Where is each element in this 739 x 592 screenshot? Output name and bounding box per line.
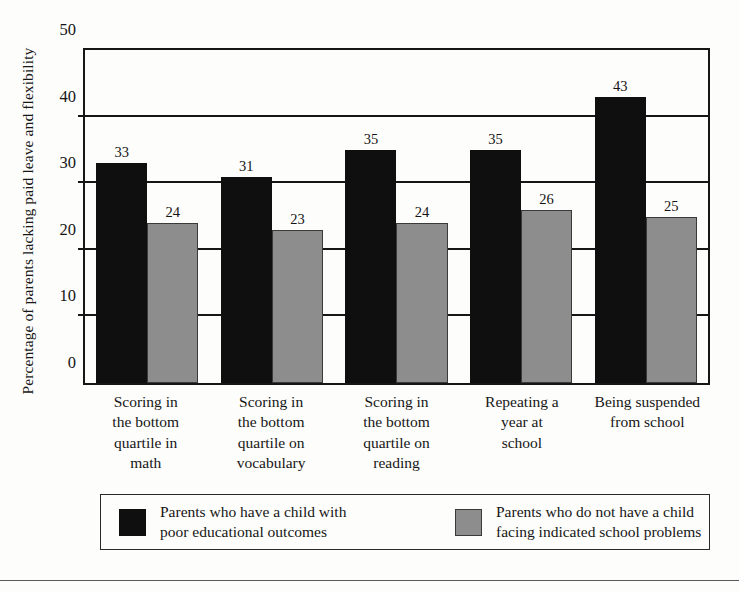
bar-slot: 24 [147,50,198,383]
x-axis-category-label: Scoring in the bottom quartile in math [83,392,208,474]
bar-chart-figure: Percentage of parents lacking paid leave… [0,0,739,592]
bar-value-label: 35 [488,131,503,148]
bar-light[interactable]: 26 [521,210,572,383]
plot-area: 33243123352435264325 01020304050 [83,48,710,385]
bar-value-label: 43 [613,78,628,95]
bar-slot: 24 [396,50,447,383]
bar-dark[interactable]: 33 [96,163,147,383]
bar-group: 3524 [334,50,459,383]
y-axis-tick-label: 30 [60,153,77,173]
bar-group: 4325 [583,50,708,383]
legend-swatch-dark-icon [119,509,146,536]
bar-groups: 33243123352435264325 [85,50,708,383]
legend-swatch-light-icon [455,509,482,536]
x-axis-category-label: Scoring in the bottom quartile on readin… [334,392,459,474]
bar-slot: 25 [646,50,697,383]
bar-value-label: 26 [539,191,554,208]
bar-slot: 33 [96,50,147,383]
bar-group: 3324 [85,50,210,383]
x-axis-category-labels: Scoring in the bottom quartile in mathSc… [83,392,710,474]
bar-dark[interactable]: 31 [221,177,272,383]
bar-light[interactable]: 24 [396,223,447,383]
bar-dark[interactable]: 35 [345,150,396,383]
bar-light[interactable]: 24 [147,223,198,383]
bar-value-label: 35 [364,131,379,148]
bar-slot: 23 [272,50,323,383]
bar-slot: 31 [221,50,272,383]
bar-value-label: 33 [115,144,130,161]
y-axis-tick-label: 50 [60,20,77,40]
bar-group: 3123 [210,50,335,383]
bar-value-label: 25 [664,198,679,215]
bar-dark[interactable]: 35 [470,150,521,383]
plot-inner: 33243123352435264325 01020304050 [85,50,708,383]
y-axis-tick-label: 10 [60,286,77,306]
chart-legend: Parents who have a child with poor educa… [100,494,710,550]
y-axis-tick-mark [78,115,85,117]
x-axis-category-label: Repeating a year at school [459,392,584,474]
y-axis-tick-label: 40 [60,86,77,106]
y-axis-tick-mark [78,181,85,183]
legend-entry-light: Parents who do not have a child facing i… [455,495,701,549]
y-axis-title: Percentage of parents lacking paid leave… [19,41,37,401]
bar-slot: 43 [595,50,646,383]
bar-slot: 26 [521,50,572,383]
legend-entry-dark: Parents who have a child with poor educa… [119,495,449,549]
y-axis-tick-label: 0 [68,353,76,373]
y-axis-tick-label: 20 [60,219,77,239]
legend-label-dark: Parents who have a child with poor educa… [160,502,346,542]
bar-value-label: 23 [290,211,305,228]
bar-slot: 35 [345,50,396,383]
bar-slot: 35 [470,50,521,383]
bar-value-label: 24 [415,204,430,221]
y-axis-tick-mark [78,314,85,316]
x-axis-category-label: Scoring in the bottom quartile on vocabu… [208,392,333,474]
bar-light[interactable]: 23 [272,230,323,383]
legend-label-light: Parents who do not have a child facing i… [496,502,701,542]
bar-group: 3526 [459,50,584,383]
bar-dark[interactable]: 43 [595,97,646,383]
footer-divider [0,580,739,581]
x-axis-category-label: Being suspended from school [585,392,710,474]
bar-value-label: 24 [166,204,181,221]
bar-light[interactable]: 25 [646,217,697,384]
bar-value-label: 31 [239,158,254,175]
y-axis-tick-mark [78,248,85,250]
